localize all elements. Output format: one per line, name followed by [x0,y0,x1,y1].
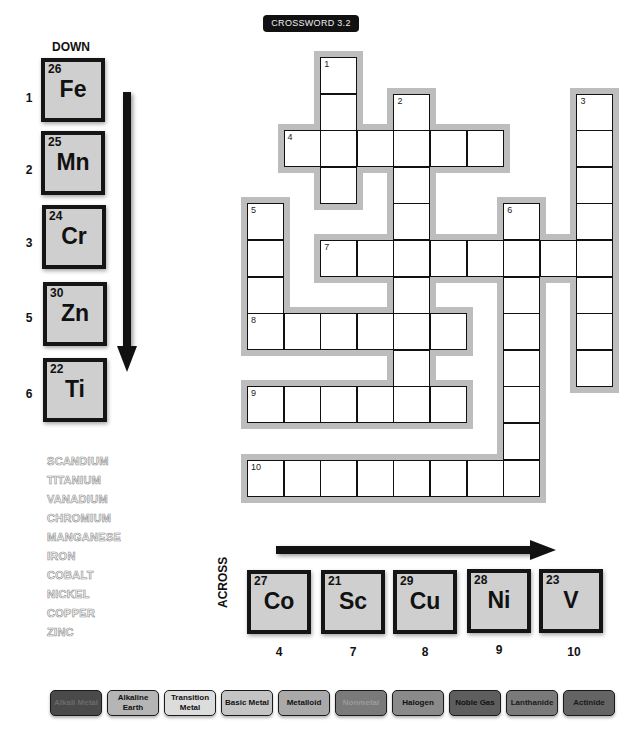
element-tile-iron: 26 Fe [41,58,105,122]
grid-cell[interactable] [467,460,504,497]
grid-cell[interactable] [357,313,394,350]
grid-cell[interactable] [393,277,430,314]
grid-cell[interactable] [503,350,540,387]
grid-cell[interactable]: 5 [247,203,284,240]
grid-cell[interactable] [430,240,467,277]
grid-cell[interactable] [540,240,577,277]
word-bank-item: MANGANESE [47,528,121,547]
legend-metalloid: Metalloid [278,690,330,716]
grid-cell[interactable]: 8 [247,313,284,350]
down-clue-number: 2 [22,163,36,177]
legend-basic-metal: Basic Metal [221,690,273,716]
across-arrow-shaft [276,546,534,554]
across-heading: ACROSS [216,557,230,608]
element-tile-zinc: 30 Zn [43,282,107,346]
grid-cell[interactable] [576,203,613,240]
grid-cell[interactable] [503,277,540,314]
grid-cell[interactable] [320,130,357,167]
grid-cell[interactable] [284,313,321,350]
down-clue-number: 3 [22,236,36,250]
word-bank-item: VANADIUM [47,490,121,509]
element-tile-nickel: 28 Ni [467,569,531,633]
grid-cell[interactable]: 9 [247,386,284,423]
grid-cell[interactable]: 6 [503,203,540,240]
grid-cell[interactable] [357,386,394,423]
grid-cell[interactable]: 10 [247,460,284,497]
grid-cell[interactable] [430,130,467,167]
clue-number-label: 4 [288,132,293,142]
grid-cell[interactable] [576,313,613,350]
grid-cell[interactable] [576,350,613,387]
grid-cell[interactable] [503,460,540,497]
clue-number-label: 8 [251,315,256,325]
grid-cell[interactable] [430,460,467,497]
grid-cell[interactable] [393,167,430,204]
grid-cell[interactable] [247,240,284,277]
grid-cell[interactable] [503,240,540,277]
grid-cell[interactable] [393,386,430,423]
element-symbol: Mn [45,149,101,176]
grid-cell[interactable] [467,240,504,277]
grid-cell[interactable] [576,240,613,277]
atomic-number: 27 [254,574,267,588]
atomic-number: 22 [50,362,63,376]
across-clue-number: 10 [564,645,584,659]
grid-cell[interactable]: 2 [393,94,430,131]
grid-cell[interactable] [393,313,430,350]
clue-number-label: 2 [397,96,402,106]
grid-cell[interactable] [320,313,357,350]
grid-cell[interactable] [357,130,394,167]
grid-cell[interactable] [320,94,357,131]
element-category-legend: Alkali Metal Alkaline Earth Transition M… [50,690,615,716]
grid-cell[interactable] [576,167,613,204]
grid-cell[interactable] [430,313,467,350]
clue-number-label: 1 [324,59,329,69]
atomic-number: 28 [474,573,487,587]
clue-number-label: 6 [507,205,512,215]
grid-cell[interactable] [357,460,394,497]
word-bank-item: COBALT [47,566,121,585]
grid-cell[interactable] [503,313,540,350]
grid-cell[interactable] [393,203,430,240]
grid-cell[interactable] [284,460,321,497]
grid-cell[interactable] [320,167,357,204]
down-clue-number: 1 [22,91,36,105]
grid-cell[interactable] [320,386,357,423]
grid-cell[interactable] [393,240,430,277]
grid-cell[interactable]: 4 [284,130,321,167]
grid-cell[interactable] [320,460,357,497]
grid-cell[interactable] [503,423,540,460]
grid-cell[interactable] [393,460,430,497]
across-clue-number: 7 [346,645,360,659]
clue-number-label: 3 [580,96,585,106]
grid-cell[interactable] [467,130,504,167]
element-tile-vanadium: 23 V [539,569,603,633]
grid-cell[interactable] [393,350,430,387]
across-arrow-icon [530,540,556,560]
element-symbol: Cu [397,588,453,615]
grid-cell[interactable] [357,240,394,277]
legend-lanthanide: Lanthanide [506,690,558,716]
down-arrow-icon [117,346,137,372]
clue-number-label: 7 [324,242,329,252]
legend-actinide: Actinide [563,690,615,716]
atomic-number: 29 [400,574,413,588]
grid-cell[interactable]: 1 [320,57,357,94]
word-bank-item: SCANDIUM [47,452,121,471]
grid-cell[interactable] [430,386,467,423]
grid-cell[interactable] [247,277,284,314]
grid-cell[interactable] [503,386,540,423]
grid-cell[interactable]: 3 [576,94,613,131]
word-bank-item: IRON [47,547,121,566]
element-tile-scandium: 21 Sc [321,570,385,634]
grid-cell[interactable] [284,386,321,423]
grid-cell[interactable] [576,277,613,314]
element-symbol: Ti [47,376,103,403]
atomic-number: 21 [328,574,341,588]
grid-cell[interactable] [393,130,430,167]
grid-cell[interactable]: 7 [320,240,357,277]
grid-cell[interactable] [576,130,613,167]
element-tile-cobalt: 27 Co [247,570,311,634]
clue-number-label: 9 [251,388,256,398]
atomic-number: 25 [48,135,61,149]
